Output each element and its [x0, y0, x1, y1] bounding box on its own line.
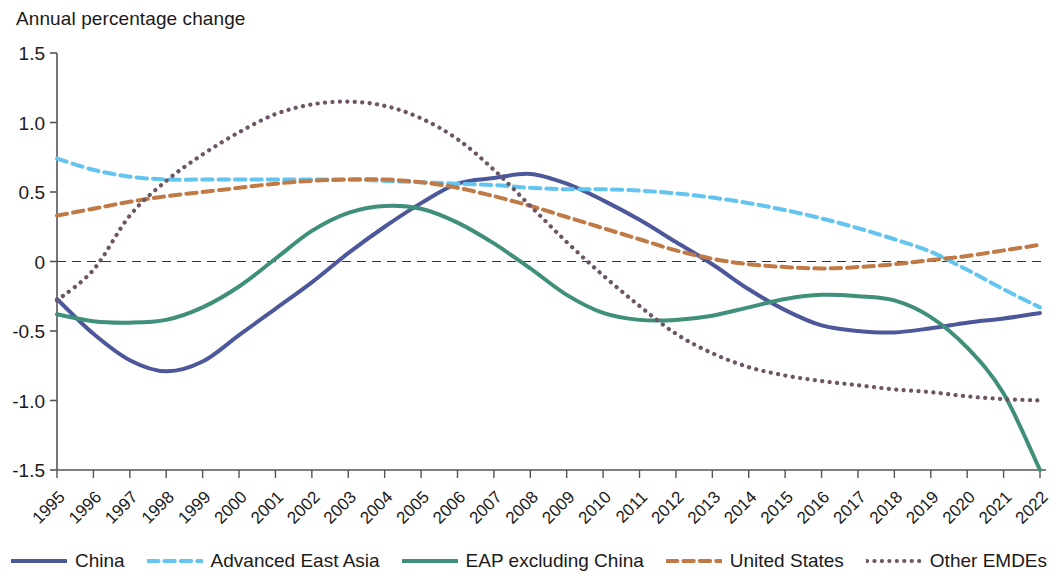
legend-label: Other EMDEs	[930, 550, 1047, 572]
legend-item[interactable]: China	[11, 550, 125, 572]
series-line	[57, 159, 1040, 308]
y-axis-tick-label: -0.5	[12, 321, 45, 342]
legend-label: United States	[730, 550, 844, 572]
x-axis-tick-label: 2009	[538, 487, 578, 527]
x-axis-tick-label: 2013	[684, 487, 724, 527]
y-axis-tick-label: -1.0	[12, 391, 45, 412]
x-axis-tick-label: 2006	[429, 487, 469, 527]
x-axis-tick-label: 2019	[902, 487, 942, 527]
x-axis-tick-label: 1998	[138, 487, 178, 527]
series-line	[57, 179, 1040, 268]
x-axis-tick-label: 2011	[612, 487, 651, 526]
x-axis-tick-label: 2015	[757, 487, 797, 527]
x-axis-tick-label: 2020	[939, 487, 979, 527]
x-axis-tick-label: 2021	[975, 487, 1015, 527]
x-axis-tick-label: 1999	[174, 487, 214, 527]
chart-figure: Annual percentage change 1.51.00.50-0.5-…	[0, 0, 1058, 580]
data-series-group	[57, 102, 1040, 470]
series-line	[57, 174, 1040, 372]
legend-item[interactable]: Other EMDEs	[866, 550, 1047, 572]
x-axis-tick-label: 2008	[502, 487, 542, 527]
legend-item[interactable]: EAP excluding China	[402, 550, 644, 572]
x-axis-tick-label: 1996	[65, 487, 105, 527]
legend-item[interactable]: Advanced East Asia	[147, 550, 380, 572]
y-axis-tick-label: 0	[34, 252, 45, 273]
x-axis-tick-label: 2022	[1012, 487, 1052, 527]
x-axis-tick-label: 2002	[283, 487, 323, 527]
y-axis-tick-label: 0.5	[19, 182, 45, 203]
x-axis-tick-label: 2000	[211, 487, 251, 527]
y-axis-tick-label: 1.0	[19, 113, 45, 134]
chart-legend: ChinaAdvanced East AsiaEAP excluding Chi…	[0, 550, 1058, 572]
y-axis-tick-label: -1.5	[12, 460, 45, 481]
x-axis-tick-label: 2010	[575, 487, 615, 527]
x-axis-tick-label: 2003	[320, 487, 360, 527]
legend-label: EAP excluding China	[466, 550, 644, 572]
x-axis-tick-label: 2004	[356, 487, 396, 527]
x-axis-tick-label: 2001	[247, 487, 287, 527]
y-axis-tick-label: 1.5	[19, 43, 45, 64]
legend-swatch-icon	[11, 554, 67, 568]
legend-swatch-icon	[866, 554, 922, 568]
x-axis-tick-label: 2016	[793, 487, 833, 527]
x-axis-tick-label: 2005	[393, 487, 433, 527]
legend-label: Advanced East Asia	[211, 550, 380, 572]
legend-swatch-icon	[147, 554, 203, 568]
series-line	[57, 102, 1040, 401]
series-line	[57, 206, 1040, 470]
x-axis-tick-label: 1995	[29, 487, 69, 527]
line-chart-plot: 1.51.00.50-0.5-1.0-1.5 19951996199719981…	[0, 0, 1058, 580]
x-axis: 1995199619971998199920002001200220032004…	[29, 470, 1052, 528]
x-axis-tick-label: 2012	[648, 487, 688, 527]
x-axis-tick-label: 2014	[720, 487, 760, 527]
legend-item[interactable]: United States	[666, 550, 844, 572]
legend-label: China	[75, 550, 125, 572]
legend-swatch-icon	[402, 554, 458, 568]
y-axis: 1.51.00.50-0.5-1.0-1.5	[12, 43, 57, 481]
x-axis-tick-label: 2017	[830, 487, 870, 527]
x-axis-tick-label: 2007	[466, 487, 506, 527]
legend-swatch-icon	[666, 554, 722, 568]
x-axis-tick-label: 1997	[101, 487, 141, 527]
x-axis-tick-label: 2018	[866, 487, 906, 527]
